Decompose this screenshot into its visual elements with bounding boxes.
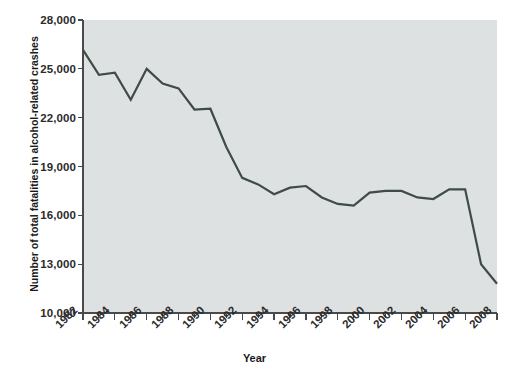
x-tick-label: 1996 [276, 304, 303, 331]
x-axis-title: Year [0, 352, 509, 364]
x-tick-label: 1990 [180, 304, 207, 331]
x-tick-label: 2000 [340, 304, 367, 331]
x-tick-label: 1986 [117, 304, 144, 331]
x-tick-label: 1984 [85, 304, 112, 331]
x-tick-label: 1982 [53, 304, 80, 331]
x-axis-tick-labels: 1982198419861988199019921994199619982000… [0, 0, 509, 382]
x-tick-label: 2006 [435, 304, 462, 331]
x-tick-label: 2008 [467, 304, 494, 331]
x-tick-label: 1988 [149, 304, 176, 331]
x-tick-label: 2004 [403, 304, 430, 331]
x-tick-label: 1992 [212, 304, 239, 331]
x-tick-label: 2002 [371, 304, 398, 331]
x-tick-label: 1994 [244, 304, 271, 331]
x-tick-label: 1998 [308, 304, 335, 331]
chart-figure: 28,00025,00022,00019,00016,00013,00010,0… [0, 0, 509, 382]
y-axis-title: Number of total fatalities in alcohol-re… [28, 14, 40, 314]
